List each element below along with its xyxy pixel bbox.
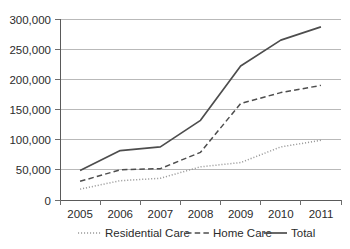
y-axis-label-150000: 150,000 [9, 104, 51, 116]
x-axis-label-2008: 2008 [188, 208, 214, 220]
x-axis-label-2011: 2011 [309, 208, 334, 220]
y-axis-label-0: 0 [45, 195, 51, 207]
legend-label-home-care: Home Care [213, 227, 272, 239]
chart-legend: Residential Care Home Care Total [78, 227, 315, 239]
series-line-residential-care [80, 140, 321, 189]
y-axis-label-50000: 50,000 [16, 164, 51, 176]
y-axis-label-250000: 250,000 [9, 44, 51, 56]
gridlines [60, 19, 341, 170]
y-axis-label-300000: 300,000 [9, 14, 51, 26]
y-axis-tick-marks [55, 19, 60, 200]
x-axis-label-2009: 2009 [228, 208, 254, 220]
x-axis-label-2006: 2006 [107, 208, 133, 220]
chart-canvas: 300,000 250,000 200,000 150,000 100,000 … [0, 0, 350, 249]
x-axis-label-2007: 2007 [148, 208, 174, 220]
series-line-home-care [80, 85, 321, 181]
legend-label-residential-care: Residential Care [105, 227, 190, 239]
y-axis-labels: 300,000 250,000 200,000 150,000 100,000 … [9, 14, 51, 207]
series-line-total [80, 27, 321, 171]
series-lines [80, 27, 321, 189]
y-axis-label-100000: 100,000 [9, 134, 51, 146]
x-axis-label-2010: 2010 [268, 208, 294, 220]
line-chart: 300,000 250,000 200,000 150,000 100,000 … [0, 0, 350, 249]
legend-label-total: Total [291, 227, 315, 239]
x-axis-labels: 2005 2006 2007 2008 2009 2010 2011 [67, 208, 333, 220]
y-axis-label-200000: 200,000 [9, 74, 51, 86]
x-axis-tick-marks [60, 200, 341, 205]
x-axis-label-2005: 2005 [67, 208, 93, 220]
